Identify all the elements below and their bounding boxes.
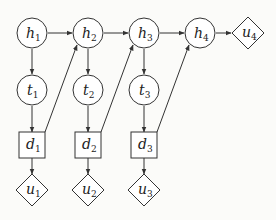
node-d3: d3 xyxy=(131,132,157,158)
node-h2: h2 xyxy=(73,18,103,48)
node-h3: h3 xyxy=(129,18,159,48)
node-u2: u2 xyxy=(72,174,104,206)
edge-d3-h4 xyxy=(157,45,189,132)
node-t3: t3 xyxy=(129,75,159,105)
node-h1: h1 xyxy=(17,18,47,48)
node-t1: t1 xyxy=(17,75,47,105)
node-u4: u4 xyxy=(232,17,264,49)
node-h4: h4 xyxy=(185,18,215,48)
node-u3: u3 xyxy=(128,174,160,206)
node-t2: t2 xyxy=(73,75,103,105)
node-d2: d2 xyxy=(75,132,101,158)
node-d1: d1 xyxy=(19,132,45,158)
edge-d2-h3 xyxy=(101,45,133,132)
influence-diagram: h1 h2 h3 h4 u4 t1 t2 t3 d1 d2 d3 xyxy=(0,0,276,220)
edge-d1-h2 xyxy=(45,45,77,132)
node-u1: u1 xyxy=(16,174,48,206)
